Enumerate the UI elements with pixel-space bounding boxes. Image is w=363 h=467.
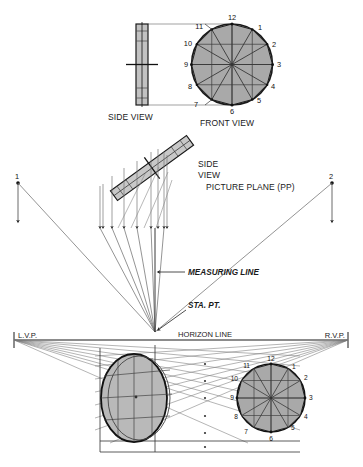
tilted-side-view xyxy=(106,130,197,206)
left-ellipse-center xyxy=(135,396,138,399)
point-1-label: 1 xyxy=(15,172,19,181)
picture-plane-label: PICTURE PLANE (PP) xyxy=(206,182,295,192)
front-num-2: 2 xyxy=(272,40,276,49)
perspective-view: 12 1 2 3 4 5 6 7 8 9 10 11 xyxy=(14,340,348,452)
persp-num-6: 6 xyxy=(269,435,273,442)
front-num-3: 3 xyxy=(277,60,281,69)
right-perspective-circle xyxy=(236,363,307,434)
ray-measure-dots xyxy=(204,363,206,448)
right-measure-point-2: 2 xyxy=(329,172,334,222)
top-front-view xyxy=(190,23,274,107)
persp-num-7: 7 xyxy=(244,428,248,435)
left-measure-point-1: 1 xyxy=(15,172,20,222)
measuring-line-label: MEASURING LINE xyxy=(188,268,260,277)
drawing-canvas: 12 1 2 3 4 5 6 7 8 9 10 11 SIDE VIEW FRO… xyxy=(0,0,363,467)
front-view-label: FRONT VIEW xyxy=(200,118,254,128)
front-num-6: 6 xyxy=(230,107,234,116)
persp-num-1: 1 xyxy=(292,363,296,370)
front-num-8: 8 xyxy=(188,82,192,91)
station-point-leader xyxy=(158,310,186,330)
front-num-7: 7 xyxy=(194,100,198,109)
front-num-9: 9 xyxy=(184,60,188,69)
sight-lines-to-station-point xyxy=(18,183,332,332)
middle-side-label-1: SIDE xyxy=(198,159,218,169)
rvp-label: R.V.P. xyxy=(325,331,345,340)
front-num-11: 11 xyxy=(195,22,203,31)
perspective-construction-figure: 12 1 2 3 4 5 6 7 8 9 10 11 SIDE VIEW FRO… xyxy=(0,0,363,467)
horizon-line-label: HORIZON LINE xyxy=(178,330,232,339)
side-view-label: SIDE VIEW xyxy=(108,112,153,122)
persp-num-11: 11 xyxy=(243,362,250,369)
front-num-5: 5 xyxy=(257,96,261,105)
middle-plan-construction: 1 2 MEASURING LINE STA. PT. SIDE VIEW xyxy=(15,130,334,332)
station-point-label: STA. PT. xyxy=(188,301,220,310)
persp-num-4: 4 xyxy=(304,413,308,420)
front-num-1: 1 xyxy=(258,23,262,32)
persp-num-2: 2 xyxy=(304,374,308,381)
lvp-label: L.V.P. xyxy=(18,331,37,340)
point-2-label: 2 xyxy=(329,172,333,181)
persp-num-8: 8 xyxy=(234,413,238,420)
persp-num-5: 5 xyxy=(291,424,295,431)
front-num-10: 10 xyxy=(184,39,192,48)
persp-num-3: 3 xyxy=(309,394,313,401)
persp-num-12: 12 xyxy=(267,355,275,362)
left-perspective-ellipse xyxy=(101,354,172,442)
persp-num-10: 10 xyxy=(231,375,239,382)
persp-num-9: 9 xyxy=(230,394,234,401)
front-num-4: 4 xyxy=(271,82,275,91)
middle-side-label-2: VIEW xyxy=(198,170,220,180)
front-num-12: 12 xyxy=(228,13,236,22)
